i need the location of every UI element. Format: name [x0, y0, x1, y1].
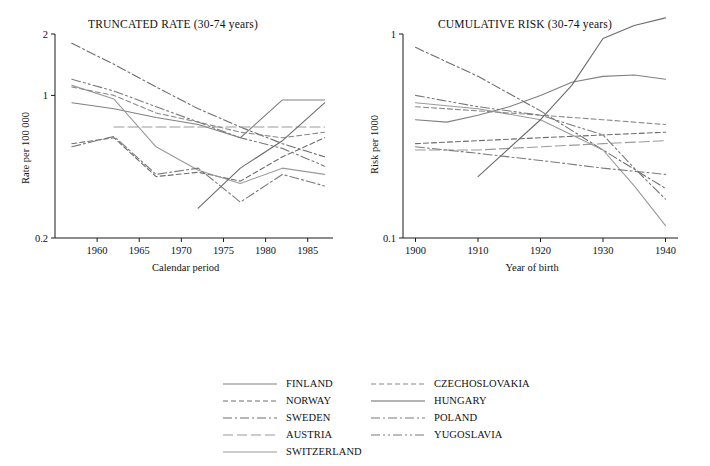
plot-area-left: 0.212196019651970197519801985: [0, 0, 355, 300]
legend-item: FINLAND: [222, 375, 362, 392]
series-line-finland: [72, 100, 325, 138]
legend-item-label: YUGOSLAVIA: [434, 429, 502, 440]
legend-line-swatch: [222, 378, 278, 390]
legend-item: CZECHOSLOVAKIA: [370, 375, 530, 392]
x-tick-label: 1980: [255, 245, 276, 256]
legend-item-label: POLAND: [434, 412, 477, 423]
x-tick-label: 1960: [87, 245, 108, 256]
legend-line-swatch: [370, 395, 426, 407]
y-tick-label: 1: [43, 90, 48, 101]
y-tick-label: 2: [43, 29, 48, 40]
x-tick-label: 1930: [593, 245, 614, 256]
chart-panel-cumulative-risk: CUMULATIVE RISK (30-74 years) 0.11190019…: [355, 0, 710, 300]
x-tick-label: 1985: [297, 245, 318, 256]
legend-item-label: FINLAND: [286, 378, 333, 389]
legend-item: AUSTRIA: [222, 426, 362, 443]
y-tick-label: 0.2: [35, 233, 48, 244]
legend-line-swatch: [370, 429, 426, 441]
x-tick-label: 1910: [468, 245, 489, 256]
series-line-yugoslavia: [72, 79, 325, 166]
legend-line-swatch: [370, 378, 426, 390]
series-line-sweden: [416, 47, 666, 188]
x-tick-label: 1965: [129, 245, 150, 256]
legend-item-label: CZECHOSLOVAKIA: [434, 378, 530, 389]
series-line-norway: [72, 138, 325, 181]
y-tick-label: 0.1: [383, 233, 396, 244]
legend-item: YUGOSLAVIA: [370, 426, 530, 443]
axis-spines: [403, 34, 678, 238]
series-line-czechoslovakia: [72, 87, 325, 138]
legend-line-swatch: [370, 412, 426, 424]
plot-svg: 0.212196019651970197519801985: [0, 0, 355, 300]
y-axis-label-left: Rate per 100 000: [20, 112, 31, 184]
legend-column-2: CZECHOSLOVAKIAHUNGARYPOLANDYUGOSLAVIA: [370, 375, 530, 443]
x-tick-label: 1900: [405, 245, 426, 256]
legend-item: HUNGARY: [370, 392, 530, 409]
legend-item-label: SWITZERLAND: [286, 446, 362, 457]
legend-item: POLAND: [370, 409, 530, 426]
series-line-austria: [416, 141, 666, 150]
legend-line-swatch: [222, 446, 278, 458]
legend-line-swatch: [222, 429, 278, 441]
plot-area-right: 0.1119001910192019301940: [355, 0, 710, 300]
legend-item: SWEDEN: [222, 409, 362, 426]
figure-canvas: TRUNCATED RATE (30-74 years) 0.212196019…: [0, 0, 710, 466]
legend-item-label: HUNGARY: [434, 395, 487, 406]
series-line-poland: [416, 147, 666, 175]
legend-column-1: FINLANDNORWAYSWEDENAUSTRIASWITZERLAND: [222, 375, 362, 460]
x-axis-label-left: Calendar period: [152, 262, 219, 273]
x-tick-label: 1975: [213, 245, 234, 256]
plot-svg: 0.1119001910192019301940: [355, 0, 710, 300]
x-tick-label: 1920: [530, 245, 551, 256]
legend-item-label: AUSTRIA: [286, 429, 332, 440]
series-line-hungary: [478, 18, 666, 177]
x-tick-label: 1970: [171, 245, 192, 256]
legend-item-label: NORWAY: [286, 395, 331, 406]
axis-spines: [55, 34, 333, 238]
x-axis-label-right: Year of birth: [506, 262, 559, 273]
legend-item: NORWAY: [222, 392, 362, 409]
legend-item: SWITZERLAND: [222, 443, 362, 460]
chart-panel-truncated-rate: TRUNCATED RATE (30-74 years) 0.212196019…: [0, 0, 355, 300]
y-tick-label: 1: [391, 29, 396, 40]
legend-item-label: SWEDEN: [286, 412, 330, 423]
legend-line-swatch: [222, 395, 278, 407]
legend-line-swatch: [222, 412, 278, 424]
x-tick-label: 1940: [655, 245, 676, 256]
y-axis-label-right: Risk per 1000: [369, 115, 380, 174]
